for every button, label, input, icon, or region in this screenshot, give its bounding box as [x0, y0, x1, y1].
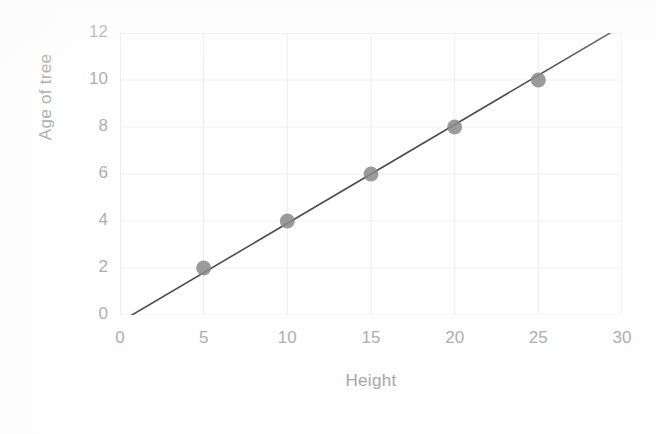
x-tick-label: 5: [184, 328, 224, 348]
plot-canvas: [120, 33, 622, 315]
plot-area: [120, 33, 622, 315]
scatter-chart: Age of tree 024681012 051015202530 Heigh…: [0, 0, 656, 434]
x-tick-label: 15: [351, 328, 391, 348]
x-tick-label: 20: [435, 328, 475, 348]
y-axis-title: Age of tree: [36, 0, 56, 247]
y-tick-label: 2: [68, 257, 108, 277]
y-tick-label: 8: [68, 116, 108, 136]
y-tick-label: 4: [68, 210, 108, 230]
x-tick-label: 30: [602, 328, 642, 348]
y-tick-label: 12: [68, 22, 108, 42]
y-tick-label: 10: [68, 69, 108, 89]
y-tick-label: 0: [68, 304, 108, 324]
x-axis-title: Height: [120, 371, 622, 391]
y-tick-label: 6: [68, 163, 108, 183]
x-tick-label: 10: [267, 328, 307, 348]
x-tick-label: 0: [100, 328, 140, 348]
x-tick-label: 25: [518, 328, 558, 348]
